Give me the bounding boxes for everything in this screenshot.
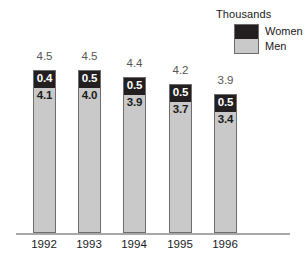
bar-segment-label-women-1993: 0.5: [82, 71, 98, 85]
bar-total-label-1996: 3.9: [214, 74, 237, 86]
bar-segment-men-1992: 4.1: [33, 88, 56, 233]
bar-total-label-1993: 4.5: [78, 50, 101, 62]
x-axis-tick-1995: 1995: [157, 238, 203, 250]
x-axis-tick-1994: 1994: [111, 238, 157, 250]
bar-segment-label-women-1996: 0.5: [218, 95, 234, 109]
bar-segment-women-1996: 0.5: [214, 94, 237, 112]
bar-segment-men-1993: 4.0: [78, 88, 101, 233]
bar-segment-women-1995: 0.5: [169, 84, 192, 102]
bar-segment-label-women-1994: 0.5: [127, 78, 143, 92]
bar-total-label-1992: 4.5: [33, 50, 56, 62]
bar-segment-women-1994: 0.5: [123, 77, 146, 95]
plot-area: 4.5 0.4 4.1 4.5 0.5 4.0 4.4 0.5: [0, 0, 306, 258]
x-axis-tick-1996: 1996: [202, 238, 248, 250]
bar-segment-label-women-1992: 0.4: [37, 71, 53, 85]
x-axis-tick-1992: 1992: [21, 238, 67, 250]
bar-segment-label-men-1992: 4.1: [37, 88, 53, 102]
x-axis-line: [16, 233, 290, 235]
bar-segment-men-1994: 3.9: [123, 95, 146, 233]
bar-segment-label-men-1996: 3.4: [218, 112, 234, 126]
bar-segment-women-1992: 0.4: [33, 70, 56, 88]
bar-total-label-1995: 4.2: [169, 64, 192, 76]
bar-segment-label-men-1994: 3.9: [127, 95, 143, 109]
bar-segment-label-men-1993: 4.0: [82, 88, 98, 102]
bar-total-label-1994: 4.4: [123, 57, 146, 69]
stacked-bar-chart: Thousands Women Men 4.5 0.4 4.1 4.5: [0, 0, 306, 258]
x-axis-tick-1993: 1993: [66, 238, 112, 250]
bar-segment-men-1996: 3.4: [214, 112, 237, 233]
bar-segment-label-women-1995: 0.5: [173, 85, 189, 99]
bar-group-1993: 4.5 0.5 4.0: [78, 70, 101, 233]
bar-group-1996: 3.9 0.5 3.4: [214, 94, 237, 233]
bar-segment-women-1993: 0.5: [78, 70, 101, 88]
bar-group-1992: 4.5 0.4 4.1: [33, 70, 56, 233]
bar-group-1995: 4.2 0.5 3.7: [169, 84, 192, 233]
bar-group-1994: 4.4 0.5 3.9: [123, 77, 146, 233]
bar-segment-label-men-1995: 3.7: [173, 102, 189, 116]
bar-segment-men-1995: 3.7: [169, 102, 192, 233]
